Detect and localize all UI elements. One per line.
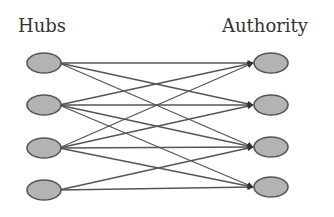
authority-node-A2 [254, 95, 288, 115]
authority-node-A4 [254, 177, 288, 197]
hub-node-H2 [27, 95, 61, 115]
authority-node-A3 [254, 137, 288, 157]
authority-node-A1 [254, 53, 288, 73]
hub-node-H3 [27, 138, 61, 158]
edge-H2-A4 [59, 105, 253, 187]
hub-node-H4 [27, 180, 61, 200]
edges-group [59, 63, 253, 190]
edge-H4-A4 [59, 187, 253, 190]
graph-canvas [0, 0, 334, 217]
hubs-authority-diagram: Hubs Authority [0, 0, 334, 217]
hub-node-H1 [27, 53, 61, 73]
edge-H3-A3 [59, 147, 253, 148]
